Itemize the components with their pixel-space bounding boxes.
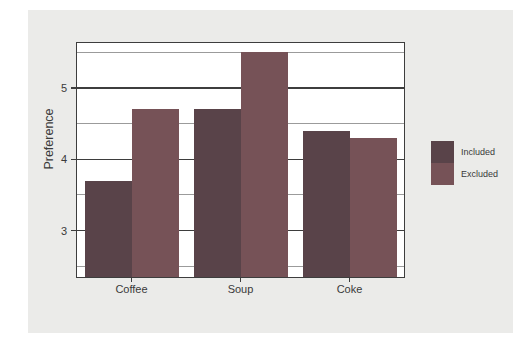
legend-swatch-included-icon — [431, 141, 454, 163]
legend-entry-excluded: Excluded — [431, 163, 498, 185]
y-tick-mark — [71, 87, 77, 89]
legend-label-included: Included — [461, 147, 495, 157]
y-tick-label: 5 — [61, 81, 67, 95]
bar-included-soup — [194, 109, 241, 277]
x-category-label: Coffee — [115, 283, 147, 295]
figure: Preference 345CoffeeSoupCoke Included Ex… — [0, 0, 528, 348]
chart-panel: Preference 345CoffeeSoupCoke Included Ex… — [28, 10, 513, 333]
y-tick-mark — [71, 159, 77, 161]
plot-area: 345CoffeeSoupCoke — [76, 42, 405, 278]
x-tick-mark — [131, 277, 133, 282]
y-axis-title: Preference — [42, 108, 56, 169]
legend-label-excluded: Excluded — [461, 169, 498, 179]
bar-excluded-coke — [350, 138, 397, 277]
y-tick-label: 4 — [61, 152, 67, 166]
x-tick-mark — [240, 277, 242, 282]
bar-excluded-soup — [241, 52, 288, 277]
x-tick-mark — [349, 277, 351, 282]
bar-included-coke — [303, 131, 350, 277]
x-category-label: Coke — [337, 283, 363, 295]
y-tick-mark — [71, 230, 77, 232]
legend-entry-included: Included — [431, 141, 498, 163]
bar-excluded-coffee — [132, 109, 179, 277]
y-tick-label: 3 — [61, 224, 67, 238]
bar-included-coffee — [85, 181, 132, 277]
x-category-label: Soup — [228, 283, 254, 295]
legend-swatch-excluded-icon — [431, 163, 454, 185]
legend: Included Excluded — [431, 141, 498, 185]
